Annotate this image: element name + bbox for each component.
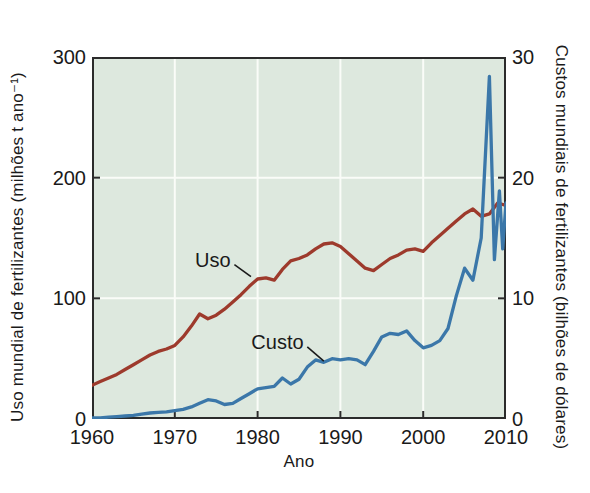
left-axis-tick-label: 300 (0, 45, 86, 69)
x-axis-tick-label: 1960 (52, 425, 132, 449)
left-axis-tick-label: 200 (0, 166, 86, 190)
x-axis-tick-label: 1990 (300, 425, 380, 449)
right-axis-tick-label: 20 (512, 166, 582, 190)
right-axis-tick-label: 10 (512, 286, 582, 310)
x-axis-tick-label: 2010 (466, 425, 546, 449)
left-axis-title: Uso mundial de fertilizantes (milhões t … (7, 72, 28, 422)
right-axis-tick-label: 30 (512, 45, 582, 69)
x-axis-tick-label: 1970 (135, 425, 215, 449)
plot-background (92, 57, 506, 419)
left-axis-tick-label: 100 (0, 286, 86, 310)
fertilizer-use-cost-chart: Uso mundial de fertilizantes (milhões t … (0, 0, 590, 493)
x-axis-title: Ano (92, 452, 506, 472)
plot-area (92, 57, 506, 419)
x-axis-tick-label: 1980 (218, 425, 298, 449)
uso-series-label: Uso (153, 248, 273, 272)
x-axis-tick-label: 2000 (383, 425, 463, 449)
custo-series-label: Custo (217, 330, 337, 354)
right-axis-title: Custos mundiais de fertilizantes (bilhõe… (551, 45, 571, 450)
